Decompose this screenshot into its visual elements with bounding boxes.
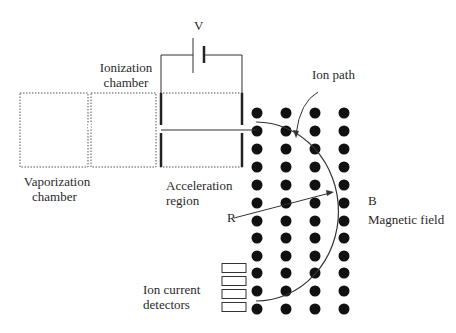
field-dot (281, 162, 292, 173)
field-dot (281, 233, 292, 244)
field-dot (252, 108, 263, 119)
field-dot (252, 268, 263, 279)
field-dot (281, 268, 292, 279)
field-dot (310, 304, 321, 315)
battery-circuit (161, 38, 242, 93)
field-dot (310, 198, 321, 209)
field-dot (252, 286, 263, 297)
field-dot (339, 286, 350, 297)
field-dot (252, 144, 263, 155)
detector-box (222, 290, 246, 299)
field-dot (281, 144, 292, 155)
field-dot (310, 108, 321, 119)
field-dot (339, 126, 350, 137)
field-dot (252, 198, 263, 209)
field-dot (281, 108, 292, 119)
field-dot (281, 180, 292, 191)
field-dot (252, 162, 263, 173)
field-dot (252, 304, 263, 315)
field-dot (310, 251, 321, 262)
field-dot (339, 198, 350, 209)
vaporization-chamber-label-1: Vaporization (14, 174, 100, 189)
field-dot (252, 126, 263, 137)
field-dot (252, 216, 263, 227)
detector-box (222, 303, 246, 312)
field-dot (339, 304, 350, 315)
field-dot (252, 251, 263, 262)
magnetic-field-dots (252, 108, 350, 315)
field-dot (310, 216, 321, 227)
field-dot (339, 108, 350, 119)
field-dot (339, 162, 350, 173)
field-dot (339, 180, 350, 191)
field-dot (281, 216, 292, 227)
field-dot (310, 286, 321, 297)
field-dot (281, 251, 292, 262)
ion-path-label: Ion path (312, 67, 355, 82)
vaporization-chamber-label-2: chamber (32, 189, 77, 204)
field-dot (310, 233, 321, 244)
acceleration-region-label-2: region (166, 193, 199, 208)
field-dot (252, 233, 263, 244)
ionization-chamber-label-1: Ionization (93, 60, 159, 75)
field-dot (339, 251, 350, 262)
field-dot (281, 304, 292, 315)
detector-box (222, 277, 246, 286)
acceleration-region-label-1: Acceleration (166, 178, 232, 193)
ionization-chamber-label-2: chamber (93, 75, 159, 90)
detector-box (222, 264, 246, 273)
field-dot (252, 180, 263, 191)
radius-label: R (227, 210, 236, 225)
field-dot (339, 268, 350, 279)
voltage-label: V (194, 18, 203, 33)
ionization-chamber (88, 93, 156, 167)
field-dot (310, 162, 321, 173)
field-dot (310, 180, 321, 191)
magnetic-field-label: Magnetic field (368, 212, 444, 227)
vaporization-chamber (20, 93, 88, 167)
ion-current-detectors-label-2: detectors (143, 297, 190, 312)
field-symbol-label: B (368, 193, 377, 208)
mass-spectrometer-diagram: V Ionization chamber Vaporization chambe… (0, 0, 456, 333)
field-dot (339, 144, 350, 155)
field-dot (339, 216, 350, 227)
ion-current-detectors-label-1: Ion current (143, 282, 200, 297)
ion-current-detectors (222, 264, 246, 312)
field-dot (339, 233, 350, 244)
field-dot (310, 126, 321, 137)
